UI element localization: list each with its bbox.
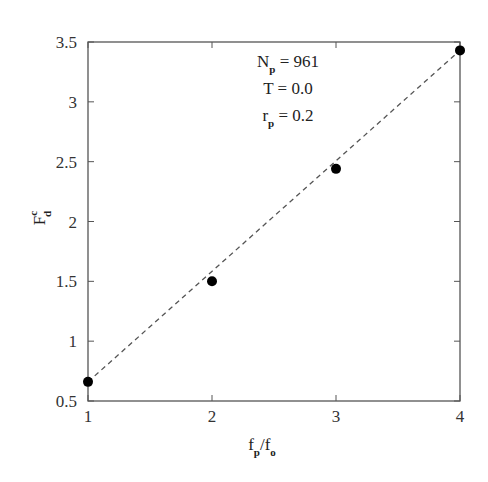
- y-axis-label: Fcd: [27, 211, 53, 225]
- fit-line: [88, 50, 460, 381]
- x-axis-label: fp/fo: [248, 435, 276, 458]
- y-tick-label: 2.5: [56, 153, 77, 172]
- annotation: T = 0.0: [263, 79, 312, 98]
- y-tick-label: 3.5: [56, 33, 77, 52]
- data-point: [83, 377, 93, 387]
- x-tick-label: 3: [332, 407, 341, 426]
- y-tick-label: 0.5: [56, 392, 77, 411]
- y-tick-label: 3: [69, 93, 78, 112]
- annotation: Np = 961: [257, 52, 319, 75]
- x-tick-label: 2: [208, 407, 217, 426]
- y-tick-label: 1.5: [56, 272, 77, 291]
- data-point: [455, 45, 465, 55]
- data-point: [207, 276, 217, 286]
- y-tick-label: 2: [69, 213, 78, 232]
- data-point: [331, 164, 341, 174]
- annotation: rp = 0.2: [262, 106, 313, 129]
- y-tick-label: 1: [69, 332, 78, 351]
- plot-area: 12340.511.522.533.5Np = 961T = 0.0rp = 0…: [27, 33, 465, 458]
- x-tick-label: 4: [456, 407, 465, 426]
- chart: 12340.511.522.533.5Np = 961T = 0.0rp = 0…: [0, 0, 488, 482]
- x-tick-label: 1: [84, 407, 93, 426]
